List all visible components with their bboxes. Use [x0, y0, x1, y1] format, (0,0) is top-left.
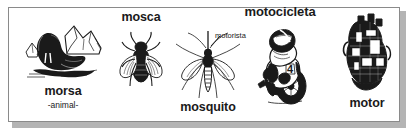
label-motor: motor — [334, 96, 400, 110]
callout-label-motorista: motorista — [215, 31, 246, 40]
motorcycle-illustration: 4 — [248, 24, 324, 108]
vocabulary-item-motor: motor — [334, 12, 400, 118]
label-motocicleta: motocicleta — [232, 4, 328, 19]
engine-illustration — [340, 12, 394, 92]
vocabulary-panel: morsa -animal- — [0, 0, 413, 133]
label-morsa: morsa — [18, 84, 108, 98]
walrus-illustration — [21, 24, 105, 82]
vocabulary-item-motocicleta: 4 — [210, 4, 330, 122]
illustration-stage: morsa -animal- — [0, 0, 413, 133]
sublabel-morsa-animal: -animal- — [18, 100, 108, 110]
label-mosca: mosca — [106, 10, 176, 24]
fly-illustration — [116, 29, 166, 91]
vocabulary-item-morsa: morsa -animal- — [18, 24, 108, 120]
